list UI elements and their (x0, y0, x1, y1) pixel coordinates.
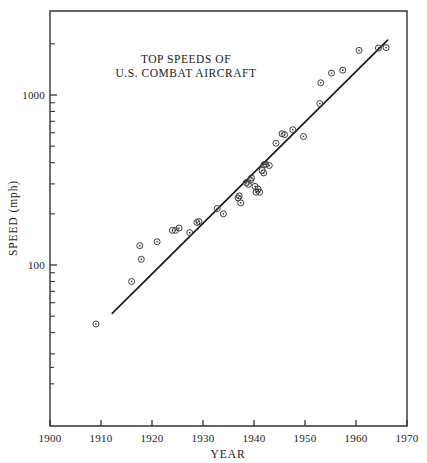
x-tick-label: 1930 (192, 432, 215, 444)
x-tick-label: 1960 (345, 432, 368, 444)
x-tick-label: 1950 (294, 432, 317, 444)
y-axis-title: SPEED (mph) (7, 180, 20, 256)
data-point (383, 45, 389, 51)
chart-figure: 190019101920193019401950196019701001000 … (0, 0, 427, 463)
data-point (220, 211, 226, 217)
chart-canvas: 190019101920193019401950196019701001000 … (0, 0, 427, 463)
data-point (187, 230, 193, 236)
data-point (236, 193, 242, 199)
data-point (214, 205, 220, 211)
data-point (93, 321, 99, 327)
data-point (340, 67, 346, 73)
chart-title-line-2: U.S. COMBAT AIRCRAFT (115, 67, 256, 79)
data-point (356, 47, 362, 53)
x-tick-label: 1900 (39, 432, 62, 444)
data-point (329, 70, 335, 76)
x-tick-label: 1910 (90, 432, 113, 444)
y-tick-label: 100 (28, 259, 45, 271)
data-point (154, 239, 160, 245)
x-tick-label: 1940 (243, 432, 266, 444)
x-tick-label: 1920 (141, 432, 164, 444)
data-point (317, 101, 323, 107)
axis-ticks (50, 44, 407, 426)
y-tick-label: 1000 (22, 89, 45, 101)
chart-title-line-1: TOP SPEEDS OF (141, 53, 231, 65)
data-point (138, 256, 144, 262)
x-axis-title: YEAR (211, 448, 246, 460)
axis-tick-labels: 190019101920193019401950196019701001000 (22, 89, 419, 444)
trend-line (112, 40, 387, 313)
data-point (318, 80, 324, 86)
data-point (129, 278, 135, 284)
data-point (273, 140, 279, 146)
data-point (238, 200, 244, 206)
x-tick-label: 1970 (396, 432, 419, 444)
data-point (290, 127, 296, 133)
data-point (300, 134, 306, 140)
data-point (137, 243, 143, 249)
